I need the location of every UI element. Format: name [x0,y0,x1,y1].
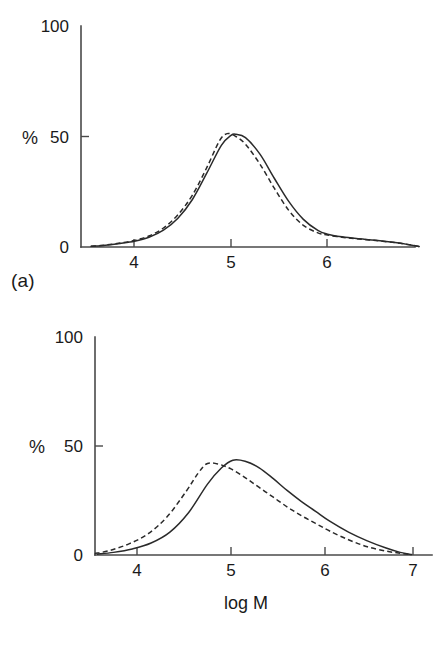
x-axis-tick-label: 7 [408,561,417,580]
figure-molecular-weight-distribution: 050100%456 (a) 050100%4567log M (b) [0,0,443,648]
x-axis-title: log M [224,593,268,613]
x-axis-tick-label: 4 [129,253,138,272]
chart-panel-a: 050100%456 (a) [0,0,443,324]
data-curve-dashed [91,133,419,246]
y-axis-tick-label: 100 [55,328,83,347]
x-axis-tick-label: 5 [226,253,235,272]
x-axis-tick-label: 6 [320,561,329,580]
y-axis-tick-label: 50 [64,437,83,456]
y-axis-tick-label: 50 [50,128,69,147]
data-curve-solid [91,134,419,247]
data-curve-solid [98,460,412,555]
y-axis-tick-label: 0 [60,238,69,257]
chart-a-canvas: 050100%456 [0,0,443,324]
panel-a-label: (a) [11,270,35,292]
chart-b-canvas: 050100%4567log M [0,324,443,648]
x-axis-tick-label: 5 [226,561,235,580]
y-axis-title: % [22,128,38,148]
x-axis-tick-label: 4 [132,561,141,580]
y-axis-tick-label: 0 [74,546,83,565]
y-axis-tick-label: 100 [41,17,69,36]
data-curve-dashed [95,463,412,555]
y-axis-title: % [29,437,45,457]
x-axis-tick-label: 6 [322,253,331,272]
chart-panel-b: 050100%4567log M (b) [0,324,443,648]
